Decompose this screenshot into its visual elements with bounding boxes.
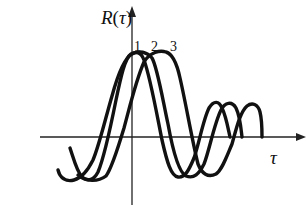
curve-label-3: 3: [170, 40, 177, 54]
curve-label-2: 2: [151, 40, 158, 54]
curve-label-1: 1: [134, 40, 141, 54]
diagram-canvas: [0, 0, 307, 215]
x-axis-label: τ: [270, 148, 277, 167]
y-axis-label: R(τ): [101, 8, 132, 27]
correlation-diagram: R(τ) τ 1 2 3: [0, 0, 307, 215]
tau-axis-arrow-icon: [296, 133, 306, 141]
curve-2: [58, 52, 242, 181]
